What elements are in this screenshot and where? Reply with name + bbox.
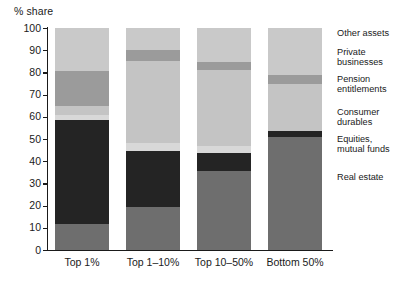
bar-segment[interactable] [268, 137, 322, 250]
legend-item[interactable]: Real estate [337, 172, 399, 182]
y-tick-mark [43, 250, 47, 251]
y-tick-label: 100 [15, 23, 41, 34]
y-tick-label-wrap: 30 [11, 178, 41, 189]
bar-segment[interactable] [55, 71, 109, 105]
legend-item[interactable]: Consumer durables [337, 107, 399, 127]
bar-2[interactable] [126, 28, 180, 250]
bar-segment[interactable] [55, 28, 109, 71]
bar-segment[interactable] [197, 153, 251, 171]
y-tick-label: 80 [15, 67, 41, 78]
bar-4[interactable] [268, 28, 322, 250]
bar-segment[interactable] [197, 146, 251, 154]
legend-item[interactable]: Private businesses [337, 47, 399, 67]
bar-segment[interactable] [126, 151, 180, 207]
bar-segment[interactable] [197, 62, 251, 70]
bar-segment[interactable] [197, 28, 251, 62]
y-tick-label-wrap: 100 [11, 23, 41, 34]
y-tick-label-wrap: 50 [11, 134, 41, 145]
bar-segment[interactable] [126, 28, 180, 50]
y-tick-label-wrap: 90 [11, 45, 41, 56]
y-tick-label-wrap: 70 [11, 89, 41, 100]
y-tick-label: 20 [15, 200, 41, 211]
y-tick-label-wrap: 10 [11, 222, 41, 233]
bar-segment[interactable] [268, 131, 322, 137]
x-axis-label: Bottom 50% [255, 256, 335, 268]
bar-segment[interactable] [126, 50, 180, 61]
y-tick-label: 10 [15, 222, 41, 233]
y-tick-label-wrap: 20 [11, 200, 41, 211]
y-axis-title: % share [14, 5, 53, 17]
legend-item[interactable]: Equities, mutual funds [337, 134, 399, 154]
x-axis-label: Top 1–10% [113, 256, 193, 268]
bar-segment[interactable] [55, 115, 109, 121]
y-tick-label-wrap: 0 [11, 245, 41, 256]
y-tick-label: 30 [15, 178, 41, 189]
legend-item[interactable]: Other assets [337, 28, 399, 38]
bar-segment[interactable] [197, 171, 251, 250]
x-axis-label: Top 10–50% [184, 256, 264, 268]
bar-segment[interactable] [126, 207, 180, 250]
y-tick-label: 40 [15, 156, 41, 167]
bar-segment[interactable] [55, 120, 109, 224]
y-tick-label-wrap: 80 [11, 67, 41, 78]
plot-area [47, 28, 332, 250]
x-axis-label: Top 1% [42, 256, 122, 268]
y-tick-label: 70 [15, 89, 41, 100]
x-axis-line [47, 250, 333, 251]
bar-segment[interactable] [55, 106, 109, 115]
bar-segment[interactable] [268, 75, 322, 84]
legend-item[interactable]: Pension entitlements [337, 74, 399, 94]
y-tick-label: 90 [15, 45, 41, 56]
bar-segment[interactable] [126, 143, 180, 151]
stacked-bar-chart: % share 1009080706050403020100 Top 1%Top… [0, 0, 399, 287]
bar-segment[interactable] [126, 61, 180, 143]
y-tick-label: 0 [15, 245, 41, 256]
bar-segment[interactable] [268, 84, 322, 132]
y-tick-label-wrap: 40 [11, 156, 41, 167]
y-tick-label-wrap: 60 [11, 111, 41, 122]
bar-segment[interactable] [197, 70, 251, 145]
bar-segment[interactable] [55, 224, 109, 250]
y-tick-label: 50 [15, 134, 41, 145]
y-tick-label: 60 [15, 111, 41, 122]
bar-segment[interactable] [268, 28, 322, 75]
bar-1[interactable] [55, 28, 109, 250]
bar-3[interactable] [197, 28, 251, 250]
